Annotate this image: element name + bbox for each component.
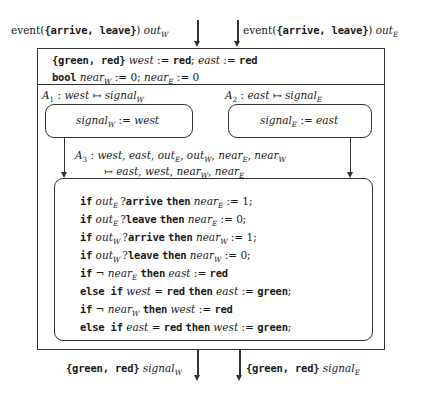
main-actor-signature-line2: ↦ east, west, nearW, nearE [104, 166, 244, 177]
code-line-3: if outW ?arrive then nearW := 1; [80, 232, 257, 243]
input-port-label-west: event({arrive, leave}) outW [11, 25, 168, 36]
connector-a2-to-a3-line [350, 138, 351, 174]
output-arrow-east-line [239, 350, 241, 376]
input-arrow-west-line [197, 20, 199, 42]
output-port-label-east: {green, red} signalE [246, 363, 360, 374]
code-line-1: if outE ?arrive then nearE := 1; [80, 196, 252, 207]
input-port-label-east: event({arrive, leave}) outE [243, 25, 398, 36]
output-arrow-west-head [194, 375, 200, 381]
code-line-6: else if west = red then east := green; [80, 286, 291, 297]
declaration-divider [37, 84, 385, 85]
actor-diagram: event({arrive, leave}) outW event({arriv… [0, 0, 433, 400]
main-actor-signature-line1: A3 : west, east, outE, outW, nearE, near… [75, 150, 286, 161]
input-arrow-east-line [237, 20, 239, 42]
input-arrow-west-head [194, 41, 200, 47]
code-line-8: else if east = red then west := green; [80, 322, 291, 333]
declaration-line-2: bool nearW := 0; nearE := 0 [52, 72, 199, 83]
code-line-4: if outW ?leave then nearW := 0; [80, 250, 251, 261]
code-line-7: if ¬ nearW then west := red [80, 304, 233, 315]
subactor-a2-signature: A2 : east ↦ signalE [225, 90, 322, 101]
subactor-a2-body: signalE := east [260, 115, 338, 126]
connector-a1-to-a3-line [64, 138, 65, 174]
output-arrow-east-head [236, 375, 242, 381]
output-port-label-west: {green, red} signalW [66, 363, 182, 374]
subactor-a1-body: signalW := west [76, 115, 159, 126]
output-arrow-west-line [197, 350, 199, 376]
code-line-5: if ¬ nearE then east := red [80, 268, 228, 279]
declaration-line-1: {green, red} west := red; east := red [52, 55, 257, 66]
code-line-2: if outE ?leave then nearE := 0; [80, 214, 246, 225]
subactor-a1-signature: A1 : west ↦ signalW [42, 90, 144, 101]
input-arrow-east-head [234, 41, 240, 47]
